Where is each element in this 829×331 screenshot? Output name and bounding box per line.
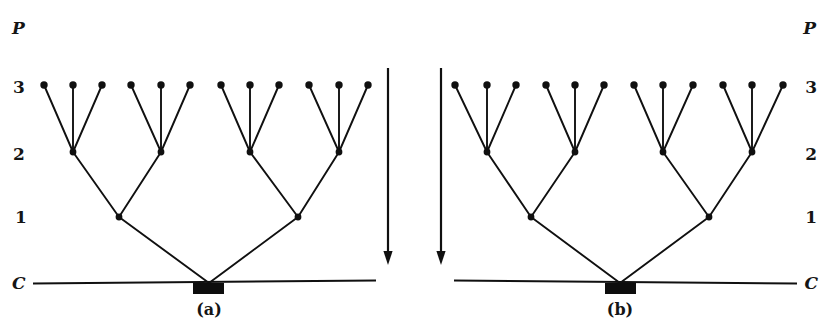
right-axis-labels: P 3 2 1 C [802,18,818,293]
tree-node-level3 [186,81,193,88]
tree-branch [250,85,279,152]
root-stem-box-a [193,283,224,294]
right-axis-label-P: P [802,18,817,38]
cladogram-figure: P 3 2 1 C P 3 2 1 C (a) (b) [0,0,829,331]
panel-a-cladogram [33,81,376,294]
left-axis-label-level3: 3 [13,77,25,97]
figure-root: P 3 2 1 C P 3 2 1 C (a) (b) [0,0,829,331]
tree-branch [73,85,102,152]
tree-branch [634,85,663,152]
root-stem-box-b [605,283,636,294]
tree-node-level2 [70,149,77,156]
tree-node-level3 [689,81,696,88]
left-axis-label-level1: 1 [15,207,27,227]
tree-branch [44,85,73,152]
right-axis-label-level3: 3 [805,77,817,97]
tree-node-level2 [484,149,491,156]
tree-node-level2 [158,149,165,156]
tree-node-level3 [451,81,458,88]
tree-node-level1 [295,214,302,221]
left-axis-labels: P 3 2 1 C [11,18,27,293]
tree-branch [723,85,752,152]
tree-branch [546,85,575,152]
tree-node-level2 [749,149,756,156]
left-axis-label-P: P [11,18,26,38]
tree-branch [221,85,250,152]
tree-node-level1 [116,214,123,221]
tree-node-level3 [305,81,312,88]
tree-node-level2 [336,149,343,156]
tree-branch [531,152,575,217]
panel-b-caption: (b) [607,300,633,319]
tree-node-level3 [217,81,224,88]
tree-branch [663,152,709,217]
tree-branch [309,85,339,152]
tree-node-level3 [98,81,105,88]
tree-branch [663,85,693,152]
tree-node-level3 [246,81,253,88]
tree-node-level3 [719,81,726,88]
tree-branch [119,152,161,217]
tree-branch [752,85,783,152]
tree-branch [487,152,531,217]
tree-node-level3 [600,81,607,88]
tree-node-level3 [779,81,786,88]
panel-b-cladogram [451,81,797,294]
right-axis-label-level2: 2 [805,144,817,164]
right-axis-label-C: C [804,273,818,293]
tree-branch [250,152,298,217]
tree-node-level1 [706,214,713,221]
tree-node-level3 [40,81,47,88]
tree-branch [298,152,339,217]
tree-branch [209,217,298,283]
tree-node-level2 [660,149,667,156]
tree-node-level3 [157,81,164,88]
tree-node-level3 [659,81,666,88]
time-arrow-left-head-icon [383,251,392,265]
tree-node-level3 [630,81,637,88]
tree-branch [455,85,487,152]
tree-node-level3 [127,81,134,88]
tree-node-level1 [528,214,535,221]
tree-branch [161,85,190,152]
tree-branch [131,85,161,152]
tree-branch [73,152,119,217]
tree-node-level2 [247,149,254,156]
tree-branch [531,217,620,283]
tree-node-level3 [571,81,578,88]
tree-node-level3 [512,81,519,88]
tree-node-level3 [748,81,755,88]
tree-branch [339,85,368,152]
time-arrows [383,68,445,265]
left-axis-label-C: C [12,273,26,293]
tree-node-level2 [572,149,579,156]
tree-node-level3 [364,81,371,88]
tree-branch [709,152,752,217]
tree-node-level3 [542,81,549,88]
left-axis-label-level2: 2 [13,144,25,164]
tree-branch [575,85,604,152]
time-arrow-right-head-icon [436,251,445,265]
tree-node-level3 [275,81,282,88]
tree-branch [487,85,516,152]
tree-branch [620,217,709,283]
tree-branch [119,217,209,283]
right-axis-label-level1: 1 [805,207,817,227]
panel-a-caption: (a) [196,300,222,319]
tree-node-level3 [69,81,76,88]
tree-node-level3 [483,81,490,88]
tree-node-level3 [335,81,342,88]
